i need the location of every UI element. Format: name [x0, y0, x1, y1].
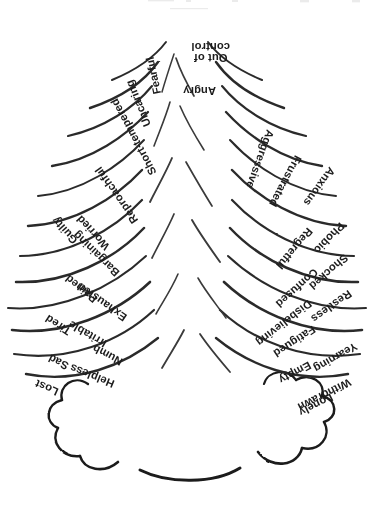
- emotion-label-out-of-control: Out ofcontrol: [191, 41, 230, 64]
- emotion-label-line-1: Out of: [191, 52, 230, 63]
- diagram-canvas: LonelyWithdrawnEmptyYearningFatiguedDisb…: [0, 0, 376, 514]
- emotion-label-angry: Angry: [183, 84, 216, 96]
- tornado-line-art: [0, 0, 376, 514]
- inner-streaks: [150, 54, 230, 372]
- storm-cloud-outline: [49, 372, 335, 480]
- emotion-label-line-2: control: [191, 41, 230, 52]
- upside-down-artwork: LonelyWithdrawnEmptyYearningFatiguedDisb…: [0, 0, 376, 514]
